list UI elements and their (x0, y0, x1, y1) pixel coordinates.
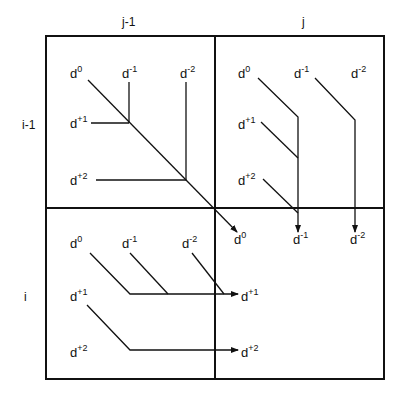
grid-diagram: j-1 j i-1 i d0 d-1 d-2 d+1 d+2 d0 d-1 d-… (0, 0, 404, 401)
line-d-plus-1 (261, 122, 298, 158)
cell-bottom-left: d0 d-1 d-2 d+1 d+2 (70, 234, 238, 360)
label-d-plus-1: d+1 (238, 115, 256, 132)
label-d-plus-2: d+2 (70, 171, 88, 188)
line-d-minus-2 (192, 253, 224, 294)
output-d-minus-1: d-1 (293, 230, 308, 247)
label-d0: d0 (70, 234, 82, 251)
label-d-minus-1: d-1 (122, 64, 137, 81)
output-d-plus-1: d+1 (241, 287, 259, 304)
row-header-i-minus-1: i-1 (22, 118, 36, 132)
label-d0: d0 (238, 64, 250, 81)
line-d-minus-1 (130, 253, 168, 294)
cell-bottom-right: d+1 d+2 (241, 287, 259, 360)
label-d-minus-1: d-1 (294, 64, 309, 81)
label-d-minus-2: d-2 (351, 64, 366, 81)
label-d0: d0 (70, 64, 82, 81)
label-d-plus-2: d+2 (238, 171, 256, 188)
output-d-plus-2: d+2 (241, 343, 259, 360)
output-d0: d0 (234, 230, 246, 247)
label-d-plus-1: d+1 (70, 114, 88, 131)
label-d-minus-2: d-2 (180, 64, 195, 81)
label-d-minus-1: d-1 (122, 234, 137, 251)
label-d-plus-2: d+2 (70, 343, 88, 360)
label-d-minus-2: d-2 (182, 234, 197, 251)
cell-top-right: d0 d-1 d-2 d+1 d+2 d0 d-1 d-2 (234, 64, 366, 247)
label-d-plus-1: d+1 (70, 287, 88, 304)
column-header-j: j (301, 15, 305, 29)
cell-top-left: d0 d-1 d-2 d+1 d+2 (70, 64, 237, 232)
column-header-j-minus-1: j-1 (121, 15, 136, 29)
row-header-i: i (24, 290, 27, 304)
output-d-minus-2: d-2 (350, 230, 365, 247)
